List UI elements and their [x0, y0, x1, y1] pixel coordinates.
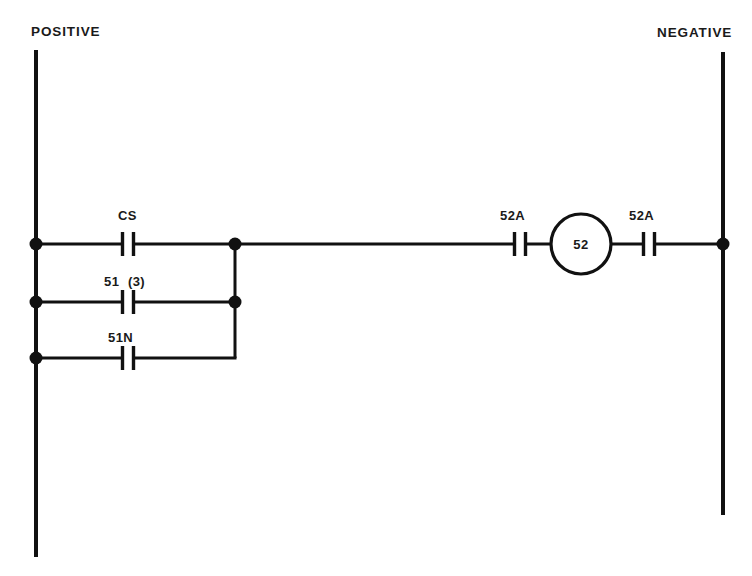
node-positive-cs: [30, 238, 43, 251]
contact-51-label-number: 51: [104, 274, 119, 289]
ladder-diagram-canvas: POSITIVE NEGATIVE CS 51 (3): [0, 0, 752, 576]
contact-52a-left-label: 52A: [500, 208, 525, 223]
coil-52-label: 52: [573, 237, 588, 252]
contact-cs-label: CS: [118, 208, 137, 223]
positive-rail-label: POSITIVE: [31, 24, 100, 39]
branch-cs: CS: [36, 208, 235, 256]
contact-52a-left: 52A: [500, 208, 526, 256]
node-positive-51: [30, 296, 43, 309]
node-negative-coil: [717, 238, 730, 251]
branch-51-3: 51 (3): [36, 274, 235, 314]
coil-52: 52: [551, 214, 611, 274]
node-junction-middle: [229, 296, 242, 309]
ladder-diagram-svg: POSITIVE NEGATIVE CS 51 (3): [0, 0, 752, 576]
branch-51n: 51N: [36, 330, 237, 370]
contact-52a-right: 52A: [629, 208, 655, 256]
negative-rail-label: NEGATIVE: [657, 25, 732, 40]
contact-51-label-phases: (3): [128, 274, 145, 289]
contact-52a-right-label: 52A: [629, 208, 654, 223]
contact-51n-label: 51N: [108, 330, 133, 345]
node-positive-51n: [30, 352, 43, 365]
node-junction-top: [229, 238, 242, 251]
